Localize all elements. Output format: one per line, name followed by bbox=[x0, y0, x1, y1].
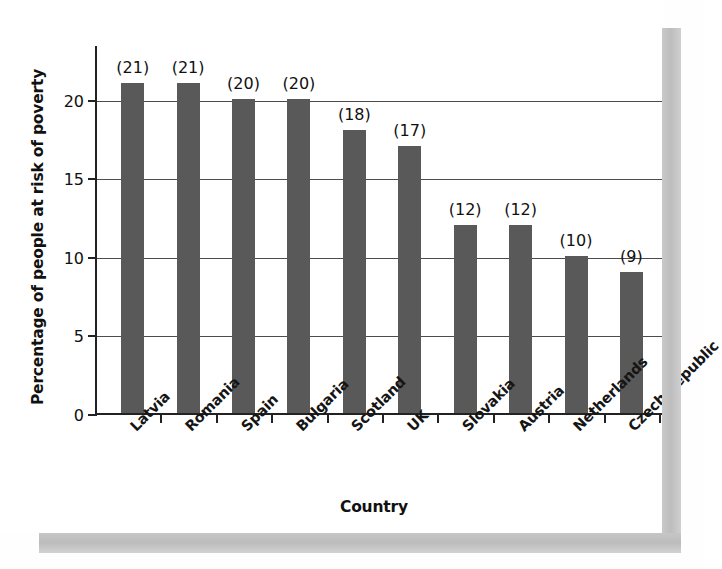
bar bbox=[343, 130, 366, 413]
bar-value-label: (12) bbox=[449, 200, 482, 219]
y-axis-tick-mark bbox=[88, 335, 97, 337]
x-axis-tick-mark bbox=[327, 415, 329, 423]
y-axis-tick-label: 0 bbox=[74, 406, 84, 425]
x-axis-tick-mark bbox=[382, 415, 384, 423]
bar-value-label: (20) bbox=[283, 74, 316, 93]
x-axis-tick-mark bbox=[548, 415, 550, 423]
bar-value-label: (12) bbox=[504, 200, 537, 219]
bar-value-label: (10) bbox=[560, 231, 593, 250]
y-axis-tick-mark bbox=[88, 414, 97, 416]
y-axis-title: Percentage of people at risk of poverty bbox=[29, 47, 47, 427]
bar bbox=[287, 99, 310, 413]
bar bbox=[121, 83, 144, 413]
y-axis-tick-label: 20 bbox=[64, 91, 84, 110]
x-axis-tick-mark bbox=[437, 415, 439, 423]
page-shadow-right bbox=[662, 28, 681, 548]
bar-value-label: (18) bbox=[338, 105, 371, 124]
bar-value-label: (17) bbox=[393, 121, 426, 140]
x-axis-tick-mark bbox=[271, 415, 273, 423]
x-axis-tick-mark bbox=[604, 415, 606, 423]
y-axis-tick-label: 15 bbox=[64, 170, 84, 189]
bar-value-label: (21) bbox=[116, 58, 149, 77]
bar bbox=[454, 225, 477, 413]
y-axis-tick-mark bbox=[88, 178, 97, 180]
x-axis-tick-mark bbox=[659, 415, 661, 423]
bar-value-label: (9) bbox=[620, 247, 643, 266]
bar-value-label: (20) bbox=[227, 74, 260, 93]
x-axis-tick-mark bbox=[216, 415, 218, 423]
bar bbox=[565, 256, 588, 413]
bar bbox=[232, 99, 255, 413]
page-shadow-bottom bbox=[39, 533, 681, 553]
y-axis-tick-mark bbox=[88, 100, 97, 102]
x-axis-tick-mark bbox=[493, 415, 495, 423]
x-axis-title: Country bbox=[340, 498, 408, 516]
bar bbox=[177, 83, 200, 413]
plot-area: 05101520 (21)(21)(20)(20)(18)(17)(12)(12… bbox=[95, 46, 663, 415]
bar-value-label: (21) bbox=[172, 58, 205, 77]
y-axis-tick-mark bbox=[88, 257, 97, 259]
x-axis-tick-mark bbox=[160, 415, 162, 423]
chart-figure: Percentage of people at risk of poverty … bbox=[0, 0, 663, 534]
y-axis-tick-label: 5 bbox=[74, 327, 84, 346]
y-axis-tick-label: 10 bbox=[64, 248, 84, 267]
bar bbox=[398, 146, 421, 413]
